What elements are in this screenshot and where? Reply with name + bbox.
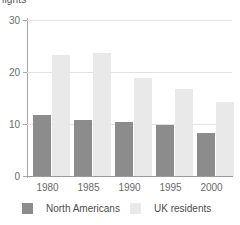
bar-group xyxy=(150,20,191,176)
legend-label-north-americans: North Americans xyxy=(46,203,120,214)
bar-group xyxy=(27,20,68,176)
plot-area: 0102030 xyxy=(27,20,232,176)
y-axis-tick-label: 20 xyxy=(9,67,20,78)
y-axis-tick-label: 10 xyxy=(9,119,20,130)
bar xyxy=(74,120,92,176)
legend-label-uk-residents: UK residents xyxy=(154,203,211,214)
chart-legend: North Americans UK residents xyxy=(22,203,232,214)
tick-mark xyxy=(23,176,27,177)
bar xyxy=(33,115,51,176)
bar-groups xyxy=(27,20,232,176)
bar xyxy=(115,122,133,176)
legend-item-north-americans: North Americans xyxy=(22,203,130,214)
legend-swatch-icon-north-americans xyxy=(22,203,33,214)
legend-item-uk-residents: UK residents xyxy=(130,203,211,214)
x-axis-line xyxy=(27,176,233,177)
y-axis-tick-label: 0 xyxy=(14,171,20,182)
x-axis-tick-label: 2000 xyxy=(182,182,240,193)
legend-swatch-icon-uk-residents xyxy=(130,203,141,214)
bar-group xyxy=(68,20,109,176)
bar xyxy=(197,133,215,176)
bar-group xyxy=(191,20,232,176)
bar-group xyxy=(109,20,150,176)
bar xyxy=(156,125,174,176)
bar xyxy=(216,102,234,176)
y-axis-title: lights xyxy=(2,0,27,5)
y-axis-tick-label: 30 xyxy=(9,15,20,26)
bar-chart: lights 0102030 19801985199019952000 Nort… xyxy=(0,0,239,225)
